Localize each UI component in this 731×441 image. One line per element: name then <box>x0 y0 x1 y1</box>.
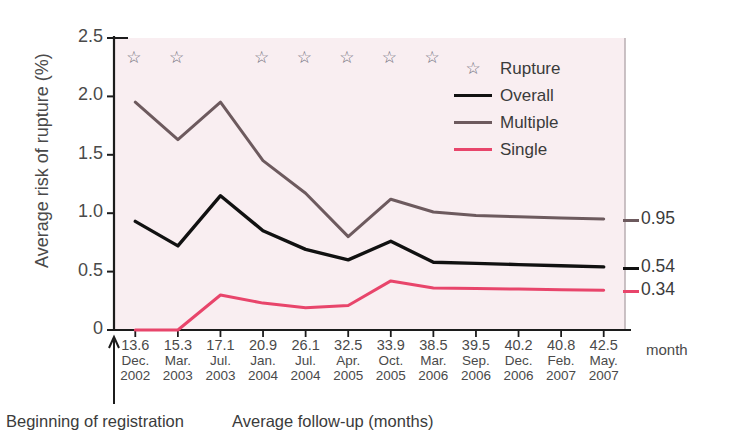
x-tick-followup: 42.5 <box>581 338 627 353</box>
x-tick-followup: 40.8 <box>538 338 584 353</box>
x-tick-followup: 33.9 <box>368 338 414 353</box>
rupture-risk-chart: Average risk of rupture (%) 00.51.01.52.… <box>0 0 731 441</box>
rupture-star-icon: ☆ <box>169 49 184 66</box>
legend-item-multiple: Multiple <box>452 109 560 136</box>
x-tick-followup: 26.1 <box>283 338 329 353</box>
x-tick-followup: 38.5 <box>410 338 456 353</box>
rupture-star-icon: ☆ <box>254 49 269 66</box>
x-tick-label-group: 39.5Sep.2006 <box>453 338 499 383</box>
chart-legend: ☆RuptureOverallMultipleSingle <box>452 55 560 163</box>
x-tick-followup: 13.6 <box>112 338 158 353</box>
rupture-star-icon: ☆ <box>339 49 354 66</box>
x-tick-year: 2004 <box>240 368 286 383</box>
x-tick-month: Mar. <box>410 353 456 368</box>
legend-key: ☆ <box>452 60 494 77</box>
rupture-star-icon: ☆ <box>382 49 397 66</box>
legend-label: Single <box>500 140 547 160</box>
rupture-star-icon: ☆ <box>126 49 141 66</box>
legend-star-icon: ☆ <box>465 60 480 77</box>
legend-label: Multiple <box>500 113 559 133</box>
x-tick-year: 2004 <box>283 368 329 383</box>
x-tick-followup: 17.1 <box>197 338 243 353</box>
x-tick-label-group: 38.5Mar.2006 <box>410 338 456 383</box>
x-tick-year: 2003 <box>197 368 243 383</box>
x-tick-year: 2005 <box>368 368 414 383</box>
x-tick-month: Dec. <box>112 353 158 368</box>
x-tick-month: Feb. <box>538 353 584 368</box>
x-tick-year: 2006 <box>410 368 456 383</box>
series-end-tick <box>623 219 639 222</box>
legend-item-single: Single <box>452 136 560 163</box>
legend-item-rupture: ☆Rupture <box>452 55 560 82</box>
legend-item-overall: Overall <box>452 82 560 109</box>
x-tick-year: 2003 <box>155 368 201 383</box>
x-tick-year: 2006 <box>496 368 542 383</box>
x-tick-month: Jul. <box>197 353 243 368</box>
x-tick-label-group: 13.6Dec.2002 <box>112 338 158 383</box>
legend-key <box>452 94 494 97</box>
series-end-value-multiple: 0.95 <box>641 208 675 229</box>
rupture-star-icon: ☆ <box>424 49 439 66</box>
x-tick-followup: 32.5 <box>325 338 371 353</box>
x-tick-month: Jan. <box>240 353 286 368</box>
x-tick-label-group: 40.2Dec.2006 <box>496 338 542 383</box>
x-tick-label-group: 40.8Feb.2007 <box>538 338 584 383</box>
x-tick-label-group: 17.1Jul.2003 <box>197 338 243 383</box>
x-tick-month: Mar. <box>155 353 201 368</box>
legend-line-swatch <box>454 94 492 97</box>
x-tick-month: Oct. <box>368 353 414 368</box>
legend-label: Overall <box>500 86 554 106</box>
x-tick-followup: 40.2 <box>496 338 542 353</box>
x-tick-label-group: 32.5Apr.2005 <box>325 338 371 383</box>
x-tick-followup: 15.3 <box>155 338 201 353</box>
legend-line-swatch <box>454 148 492 151</box>
x-tick-label-group: 42.5May.2007 <box>581 338 627 383</box>
legend-key <box>452 148 494 151</box>
x-tick-label-group: 26.1Jul.2004 <box>283 338 329 383</box>
rupture-star-icon: ☆ <box>297 49 312 66</box>
series-end-tick <box>623 290 639 293</box>
x-tick-label-group: 33.9Oct.2005 <box>368 338 414 383</box>
x-axis-title: Average follow-up (months) <box>232 412 433 431</box>
x-tick-followup: 39.5 <box>453 338 499 353</box>
x-tick-label-group: 20.9Jan.2004 <box>240 338 286 383</box>
series-end-tick <box>623 267 639 270</box>
x-axis-unit-label: month <box>646 341 688 358</box>
x-tick-year: 2007 <box>581 368 627 383</box>
legend-line-swatch <box>454 121 492 124</box>
x-tick-month: May. <box>581 353 627 368</box>
registration-annotation: Beginning of registration <box>6 412 184 431</box>
legend-key <box>452 121 494 124</box>
x-tick-month: Dec. <box>496 353 542 368</box>
x-tick-month: Sep. <box>453 353 499 368</box>
legend-label: Rupture <box>500 59 560 79</box>
x-tick-year: 2007 <box>538 368 584 383</box>
x-tick-month: Jul. <box>283 353 329 368</box>
x-tick-label-group: 15.3Mar.2003 <box>155 338 201 383</box>
x-tick-year: 2006 <box>453 368 499 383</box>
series-end-value-overall: 0.54 <box>641 256 675 277</box>
x-tick-followup: 20.9 <box>240 338 286 353</box>
x-tick-month: Apr. <box>325 353 371 368</box>
series-end-value-single: 0.34 <box>641 279 675 300</box>
x-tick-year: 2002 <box>112 368 158 383</box>
x-tick-year: 2005 <box>325 368 371 383</box>
